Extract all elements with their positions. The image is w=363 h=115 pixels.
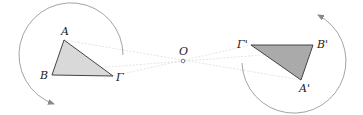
center-point-o	[181, 59, 185, 63]
label-gamma: Γ	[115, 71, 124, 84]
triangle-abg	[52, 40, 113, 76]
diagram-svg: O A B Γ Γ' B' A'	[0, 0, 363, 115]
label-gamma-prime: Γ'	[236, 38, 248, 51]
label-b-prime: B'	[316, 38, 328, 51]
label-o: O	[179, 45, 188, 58]
label-b: B	[39, 69, 48, 82]
label-a: A	[60, 25, 69, 38]
point-symmetry-diagram: O A B Γ Γ' B' A'	[0, 0, 363, 115]
label-a-prime: A'	[298, 82, 310, 95]
triangle-a-b-g-prime	[251, 45, 313, 80]
